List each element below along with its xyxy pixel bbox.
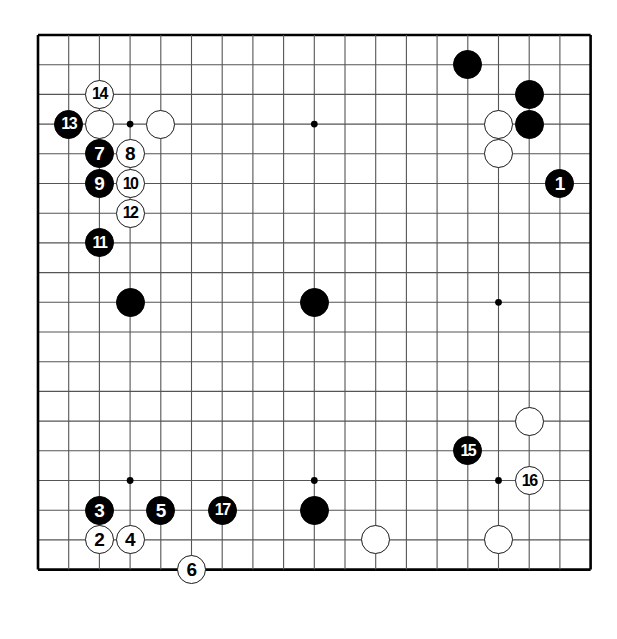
star-point xyxy=(311,121,318,128)
numbered-stone-white-8: 8 xyxy=(116,139,145,168)
numbered-stone-black-3: 3 xyxy=(85,496,114,525)
stone-move-number: 5 xyxy=(156,500,166,519)
numbered-stone-black-7: 7 xyxy=(85,139,114,168)
star-point xyxy=(127,477,134,484)
numbered-stone-white-14: 14 xyxy=(85,80,114,109)
star-point xyxy=(127,121,134,128)
stone-black xyxy=(515,80,544,109)
numbered-stone-white-6: 6 xyxy=(177,555,206,584)
stone-move-number: 1 xyxy=(555,174,565,193)
stone-black xyxy=(515,110,544,139)
star-point xyxy=(495,299,502,306)
stone-move-number: 6 xyxy=(186,560,196,579)
stone-move-number: 17 xyxy=(215,502,230,518)
stone-white xyxy=(515,407,544,436)
stone-move-number: 9 xyxy=(94,174,104,193)
star-point xyxy=(311,477,318,484)
numbered-stone-white-4: 4 xyxy=(116,525,145,554)
stone-move-number: 10 xyxy=(123,175,138,191)
stone-move-number: 14 xyxy=(92,86,107,102)
stone-white xyxy=(146,110,175,139)
stone-move-number: 4 xyxy=(125,530,135,549)
stone-move-number: 3 xyxy=(94,500,104,519)
stone-move-number: 12 xyxy=(123,205,138,221)
numbered-stone-black-5: 5 xyxy=(146,496,175,525)
stone-move-number: 8 xyxy=(125,144,135,163)
stone-move-number: 15 xyxy=(460,442,475,458)
go-board-figure: 1234567891011121314151617 xyxy=(0,0,617,639)
stone-black xyxy=(116,288,145,317)
numbered-stone-black-13: 13 xyxy=(54,110,83,139)
stone-black xyxy=(300,288,329,317)
stone-white xyxy=(484,110,513,139)
numbered-stone-black-9: 9 xyxy=(85,169,114,198)
stone-move-number: 2 xyxy=(94,530,104,549)
numbered-stone-black-17: 17 xyxy=(208,496,237,525)
numbered-stone-white-10: 10 xyxy=(116,169,145,198)
stone-black xyxy=(300,496,329,525)
stone-move-number: 7 xyxy=(94,144,104,163)
stone-move-number: 13 xyxy=(61,116,76,132)
numbered-stone-white-16: 16 xyxy=(515,466,544,495)
stone-move-number: 11 xyxy=(92,234,106,250)
stone-white xyxy=(85,110,114,139)
star-point xyxy=(495,477,502,484)
numbered-stone-white-12: 12 xyxy=(116,199,145,228)
stone-move-number: 16 xyxy=(522,472,537,488)
